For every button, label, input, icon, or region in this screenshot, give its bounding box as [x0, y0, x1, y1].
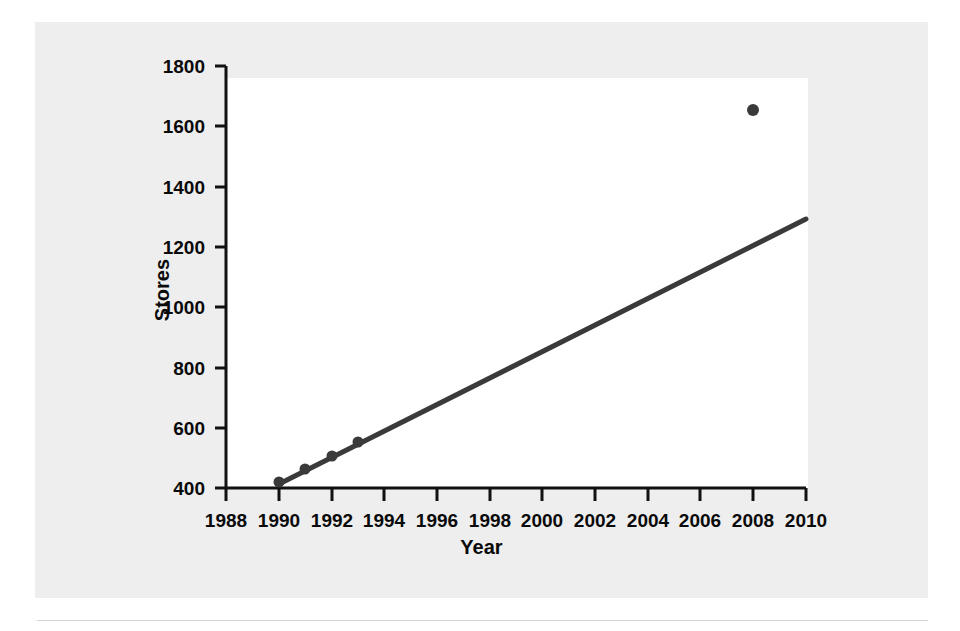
x-tick-label-2000: 2000: [521, 511, 563, 530]
data-points: [274, 104, 760, 488]
data-point-outlier: [747, 104, 759, 116]
data-point: [300, 464, 311, 475]
data-point: [274, 477, 285, 488]
x-tick-label-1992: 1992: [311, 511, 353, 530]
y-tick-label-800: 800: [125, 359, 205, 378]
x-tick-label-1998: 1998: [469, 511, 511, 530]
x-axis-label: Year: [35, 537, 928, 557]
y-tick-label-1800: 1800: [125, 57, 205, 76]
data-point: [327, 451, 338, 462]
x-tick-label-2002: 2002: [574, 511, 616, 530]
x-tick-label-1994: 1994: [363, 511, 405, 530]
x-tick-label-1996: 1996: [416, 511, 458, 530]
x-tick-label-1990: 1990: [258, 511, 300, 530]
y-tick-label-1400: 1400: [125, 178, 205, 197]
x-tick-label-2006: 2006: [679, 511, 721, 530]
y-axis-ticks: [215, 66, 226, 488]
data-point: [353, 437, 364, 448]
x-tick-label-1988: 1988: [205, 511, 247, 530]
y-tick-label-600: 600: [125, 419, 205, 438]
x-tick-label-2008: 2008: [732, 511, 774, 530]
x-tick-label-2004: 2004: [627, 511, 669, 530]
figure-panel: 1800 1600 1400 1200 1000 800 600 400 198…: [35, 22, 928, 598]
y-tick-label-1200: 1200: [125, 238, 205, 257]
x-tick-label-2010: 2010: [785, 511, 827, 530]
y-tick-label-400: 400: [125, 479, 205, 498]
y-axis-label: Stores: [152, 259, 172, 321]
bottom-divider: [37, 620, 928, 621]
y-tick-label-1600: 1600: [125, 117, 205, 136]
x-axis-ticks: [226, 488, 806, 501]
